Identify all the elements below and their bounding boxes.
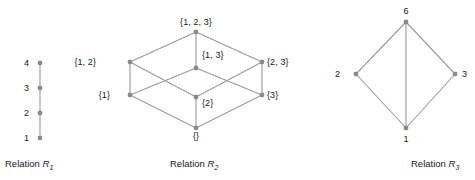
graph-node[interactable] [404,20,408,24]
graph-edge [406,74,455,128]
graph-edge [356,74,406,128]
graph-edge [130,32,196,62]
graph-edge [406,22,455,74]
node-label: {} [156,131,236,141]
graph-edge [196,68,262,95]
graph-edge [130,95,196,128]
node-label: {3} [267,90,278,100]
relation-caption-r3: Relation R3 [411,158,459,173]
relation-graph-r2 [128,30,264,130]
caption-prefix: Relation [170,158,208,169]
node-label: 2 [260,69,340,79]
node-label: 3 [462,69,467,79]
graph-node[interactable] [194,66,198,70]
node-label: 1 [24,133,29,143]
figure-canvas: 4321Relation R1{1, 2, 3}{1, 2}{1, 3}{2, … [0,0,475,180]
graph-edge [130,62,196,97]
graph-node[interactable] [194,126,198,130]
graph-node[interactable] [38,111,42,115]
graph-node[interactable] [453,72,457,76]
node-label: {2, 3} [267,57,289,67]
node-label: {1, 2, 3} [156,17,236,27]
node-label: {1} [30,90,110,100]
node-label: {1, 3} [202,50,224,60]
relation-caption-r1: Relation R1 [5,158,53,173]
graph-node[interactable] [128,60,132,64]
graph-node[interactable] [128,93,132,97]
caption-prefix: Relation [411,158,449,169]
relation-graph-r3 [354,20,457,130]
node-label: {2} [202,98,213,108]
graph-node[interactable] [260,93,264,97]
graph-node[interactable] [260,60,264,64]
relation-graph-r1 [38,61,42,140]
graph-edge [130,68,196,95]
node-label: 6 [366,6,446,16]
graph-edge [196,62,262,97]
caption-prefix: Relation [5,158,43,169]
node-label: {1, 2} [16,57,96,67]
node-label: 1 [366,134,446,144]
graph-node[interactable] [404,126,408,130]
graph-node[interactable] [38,136,42,140]
graph-node[interactable] [194,30,198,34]
caption-subscript: 1 [49,164,53,171]
graph-node[interactable] [354,72,358,76]
caption-subscript: 3 [455,164,459,171]
caption-subscript: 2 [214,164,218,171]
node-label: 2 [24,108,29,118]
graph-node[interactable] [194,95,198,99]
node-label: 3 [24,83,29,93]
relation-caption-r2: Relation R2 [170,158,218,173]
graph-edge [356,22,406,74]
